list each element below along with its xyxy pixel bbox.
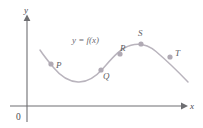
point-label-s: S [138, 28, 143, 38]
point-label-p: P [55, 60, 62, 70]
point-label-r: R [119, 43, 126, 53]
x-axis-arrowhead [181, 103, 188, 110]
point-label-t: T [175, 48, 181, 58]
function-graph-figure: P Q R S T y = f(x) x y 0 [0, 0, 203, 128]
function-equation-label: y = f(x) [71, 35, 99, 45]
x-axis-label: x [189, 101, 194, 111]
point-marker-s [138, 41, 143, 46]
graph-canvas: P Q R S T y = f(x) x y 0 [0, 0, 203, 128]
origin-label: 0 [16, 112, 21, 122]
y-axis-label: y [23, 5, 28, 15]
point-marker-t [167, 54, 172, 59]
point-marker-p [48, 61, 53, 66]
y-axis-arrowhead [24, 15, 31, 22]
point-label-q: Q [103, 71, 110, 81]
function-curve [40, 44, 188, 82]
